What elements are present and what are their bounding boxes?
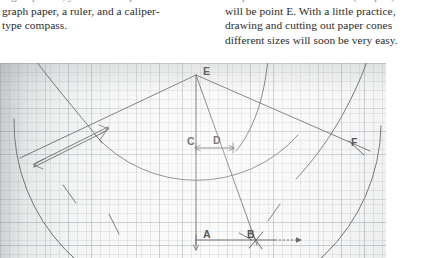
left-column-line-2: graph paper, a ruler, and a caliper-: [2, 4, 195, 19]
left-column-line-3: type compass.: [2, 18, 195, 33]
point-label-c: C: [187, 135, 195, 147]
ruler-edge-bottom: [34, 131, 106, 167]
right-column-line-4: different sizes will soon be very easy.: [225, 33, 431, 48]
radius-through-b: [196, 75, 257, 245]
left-column-line-1: ing of plastic, you'll need a piece of: [2, 0, 195, 4]
right-column-line-1: the pointed end of the cone (or apex): [225, 0, 431, 4]
construction-arc-upper-right: [236, 63, 268, 151]
arc-tickmarks: [63, 128, 280, 240]
point-label-a: A: [203, 228, 211, 240]
ruler-arrow-left: [33, 159, 44, 169]
radius-left-edge: [20, 75, 196, 158]
point-label-f: F: [351, 136, 358, 148]
body-text-area: ing of plastic, you'll need a piece of g…: [0, 0, 431, 62]
outer-arc: [14, 119, 381, 258]
point-label-e: E: [203, 65, 210, 77]
figure-cone-layout-photo: E C D A B F: [0, 63, 386, 258]
right-column-line-3: drawing and cutting out paper cones: [225, 18, 431, 33]
right-text-column: the pointed end of the cone (or apex) wi…: [225, 0, 431, 47]
book-page: ing of plastic, you'll need a piece of g…: [0, 0, 431, 258]
cone-construction-drawing: E C D A B F: [0, 63, 386, 258]
construction-arc-upper-left: [33, 63, 102, 143]
construction-arc-lower-right: [296, 63, 368, 179]
left-text-column: ing of plastic, you'll need a piece of g…: [2, 0, 195, 33]
point-label-d: D: [213, 134, 221, 146]
right-column-line-2: will be point E. With a little practice,: [225, 4, 431, 19]
point-label-b: B: [247, 228, 255, 240]
baseline-arrowhead: [296, 237, 302, 243]
